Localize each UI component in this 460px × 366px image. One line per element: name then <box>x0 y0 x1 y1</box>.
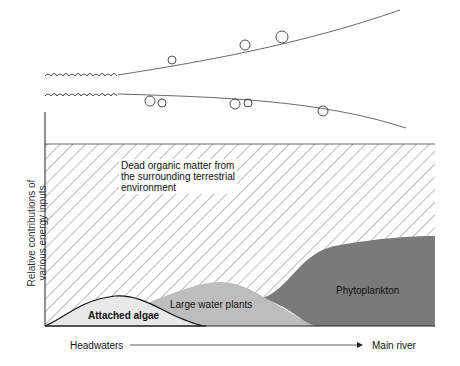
phytoplankton-label: Phytoplankton <box>336 285 399 296</box>
dead-organic-label: Dead organic matter from the surrounding… <box>119 159 237 194</box>
arrow-head-icon <box>357 342 363 348</box>
headwaters-label: Headwaters <box>70 340 123 351</box>
large-water-plants-label: Large water plants <box>170 299 252 310</box>
y-axis-label: Relative contributions of various energy… <box>26 158 48 308</box>
attached-algae-label: Attached algae <box>88 310 159 321</box>
river-illustration <box>45 10 406 128</box>
main-river-label: Main river <box>372 340 416 351</box>
